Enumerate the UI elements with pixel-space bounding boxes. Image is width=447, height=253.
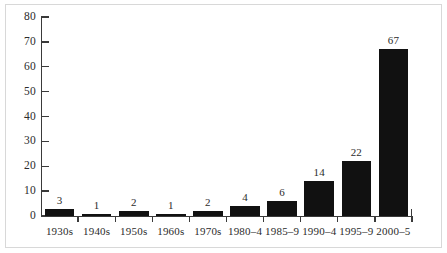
bar xyxy=(119,211,149,216)
y-axis-tick-label: 10 xyxy=(2,185,36,197)
bar xyxy=(156,214,186,216)
bar-value-label: 67 xyxy=(375,35,412,46)
y-axis-tick-label: 70 xyxy=(2,36,36,48)
bars-group xyxy=(41,17,412,216)
bar-value-label: 1 xyxy=(152,200,189,211)
x-axis-tick-label: 2000–5 xyxy=(375,226,412,237)
bar-value-label: 22 xyxy=(338,147,375,158)
bar xyxy=(45,209,75,216)
bar xyxy=(230,206,260,216)
x-axis-tick xyxy=(337,216,338,222)
x-axis-tick xyxy=(226,216,227,222)
bar-chart-figure: 01020304050607080 3121246142267 1930s194… xyxy=(0,0,447,253)
x-axis-tick xyxy=(411,216,412,222)
bar xyxy=(379,49,409,216)
y-axis-tick-label: 0 xyxy=(2,210,36,222)
bar-value-label: 2 xyxy=(115,197,152,208)
bar xyxy=(342,161,372,216)
x-axis-tick-label: 1950s xyxy=(115,226,152,237)
x-axis-tick-label: 1960s xyxy=(152,226,189,237)
bar-value-label: 4 xyxy=(227,192,264,203)
bar-value-label: 1 xyxy=(78,200,115,211)
bar xyxy=(304,181,334,216)
x-axis-tick xyxy=(77,216,78,222)
x-axis-tick xyxy=(152,216,153,222)
y-axis-tick-label: 20 xyxy=(2,160,36,172)
x-axis-tick-label: 1985–9 xyxy=(264,226,301,237)
bar-value-label: 2 xyxy=(189,197,226,208)
y-axis-tick-label: 60 xyxy=(2,61,36,73)
bar-value-label: 14 xyxy=(301,167,338,178)
x-axis-tick xyxy=(263,216,264,222)
x-axis-tick-label: 1995–9 xyxy=(338,226,375,237)
bar xyxy=(267,201,297,216)
x-axis-tick xyxy=(300,216,301,222)
x-axis-tick-label: 1970s xyxy=(189,226,226,237)
y-axis-tick-label: 50 xyxy=(2,86,36,98)
y-axis-tick-label: 80 xyxy=(2,11,36,23)
x-axis-tick-label: 1990–4 xyxy=(301,226,338,237)
bar xyxy=(193,211,223,216)
y-axis-tick-label: 40 xyxy=(2,111,36,123)
x-axis-tick-label: 1980–4 xyxy=(227,226,264,237)
x-axis-tick-label: 1930s xyxy=(41,226,78,237)
x-axis-tick xyxy=(189,216,190,222)
bar xyxy=(82,214,112,216)
y-axis-tick-labels: 01020304050607080 xyxy=(0,0,36,253)
x-axis-tick xyxy=(374,216,375,222)
bar-value-label: 3 xyxy=(41,195,78,206)
x-axis-tick xyxy=(115,216,116,222)
x-axis-tick-label: 1940s xyxy=(78,226,115,237)
bar-value-label: 6 xyxy=(264,187,301,198)
y-axis-tick-label: 30 xyxy=(2,135,36,147)
